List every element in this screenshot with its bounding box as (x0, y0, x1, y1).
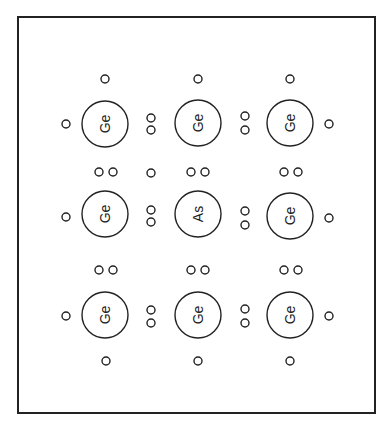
electron (325, 312, 333, 320)
electron (280, 168, 288, 176)
electron (147, 206, 155, 214)
electron (294, 266, 302, 274)
electron (109, 266, 117, 274)
electron (286, 357, 294, 365)
electron (241, 112, 249, 120)
atom-ge: Ge (175, 292, 221, 338)
electron (95, 266, 103, 274)
electron (325, 214, 333, 222)
atom-ge: Ge (267, 292, 313, 338)
atom-ge: Ge (175, 100, 221, 146)
electron (241, 319, 249, 327)
electron (241, 305, 249, 313)
electron (147, 319, 155, 327)
electron (147, 169, 155, 177)
electron (187, 266, 195, 274)
electron (62, 312, 70, 320)
electron (280, 266, 288, 274)
atom-ge: Ge (82, 101, 128, 147)
atom-label: Ge (282, 206, 298, 225)
atom-label: Ge (282, 305, 298, 324)
atom-label: Ge (97, 305, 113, 324)
atom-as: As (175, 191, 221, 237)
atom-ge: Ge (267, 100, 313, 146)
electron (147, 306, 155, 314)
electron (147, 126, 155, 134)
atom-label: Ge (282, 113, 298, 132)
electron (286, 75, 294, 83)
electron (194, 75, 202, 83)
atom-label: As (190, 206, 206, 222)
electron (241, 126, 249, 134)
electron (147, 114, 155, 122)
electron (201, 266, 209, 274)
electron (201, 168, 209, 176)
electron (62, 120, 70, 128)
atom-ge: Ge (82, 191, 128, 237)
electron (194, 357, 202, 365)
electron (325, 120, 333, 128)
lattice-diagram: GeGeGeGeAsGeGeGeGe (0, 0, 381, 434)
atom-label: Ge (190, 113, 206, 132)
electron (187, 168, 195, 176)
electron (62, 213, 70, 221)
atom-label: Ge (97, 204, 113, 223)
electron (147, 218, 155, 226)
electron (101, 75, 109, 83)
atom-ge: Ge (267, 193, 313, 239)
electron (241, 221, 249, 229)
electron (109, 168, 117, 176)
atom-ge: Ge (82, 292, 128, 338)
electron (241, 207, 249, 215)
electron (102, 357, 110, 365)
atom-label: Ge (97, 114, 113, 133)
electron (294, 168, 302, 176)
electron (95, 168, 103, 176)
atom-label: Ge (190, 305, 206, 324)
